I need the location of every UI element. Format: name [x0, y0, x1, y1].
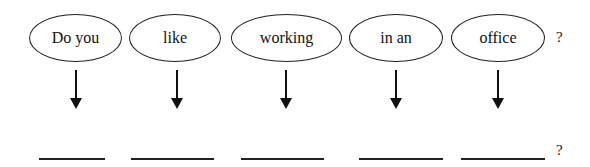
word-ellipse-4: in an: [349, 14, 443, 62]
down-arrow-icon: [171, 70, 183, 110]
word-label: like: [163, 29, 187, 47]
word-ellipse-3: working: [231, 14, 342, 62]
answer-blank-1[interactable]: [39, 158, 105, 160]
word-ellipse-2: like: [129, 14, 221, 62]
word-label: Do you: [52, 29, 100, 47]
word-label: office: [479, 29, 516, 47]
answer-blank-5[interactable]: [461, 158, 545, 160]
answer-blank-2[interactable]: [131, 158, 214, 160]
word-ellipse-1: Do you: [29, 14, 122, 62]
down-arrow-icon: [390, 70, 402, 110]
down-arrow-icon: [280, 70, 292, 110]
word-label: working: [260, 29, 313, 47]
top-question-mark: ?: [556, 29, 563, 46]
bottom-question-mark: ?: [556, 142, 563, 159]
answer-blank-3[interactable]: [241, 158, 324, 160]
down-arrow-icon: [492, 70, 504, 110]
word-label: in an: [380, 29, 412, 47]
down-arrow-icon: [70, 70, 82, 110]
word-ellipse-5: office: [451, 14, 545, 62]
answer-blank-4[interactable]: [359, 158, 443, 160]
